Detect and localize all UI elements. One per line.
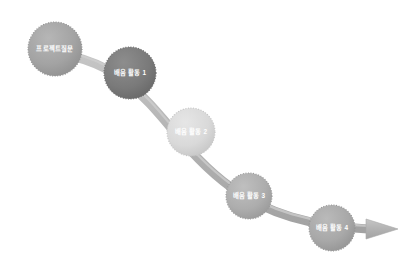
node-circle[interactable] <box>309 205 355 251</box>
node-2[interactable]: 배움 활동 1 <box>104 47 156 99</box>
node-3[interactable]: 배움 활동 2 <box>167 108 215 156</box>
node-circle[interactable] <box>167 108 215 156</box>
node-circle[interactable] <box>104 47 156 99</box>
diagram-canvas: 프로젝트질문 배움 활동 1 배움 활동 2 배움 활동 3 배움 활동 4 <box>0 0 420 268</box>
node-5[interactable]: 배움 활동 4 <box>309 205 355 251</box>
process-flow-diagram: 프로젝트질문 배움 활동 1 배움 활동 2 배움 활동 3 배움 활동 4 <box>0 0 420 268</box>
node-circle[interactable] <box>226 173 272 219</box>
node-4[interactable]: 배움 활동 3 <box>226 173 272 219</box>
node-1[interactable]: 프로젝트질문 <box>28 22 82 76</box>
arrow-right-icon <box>366 219 398 239</box>
node-circle[interactable] <box>28 22 82 76</box>
